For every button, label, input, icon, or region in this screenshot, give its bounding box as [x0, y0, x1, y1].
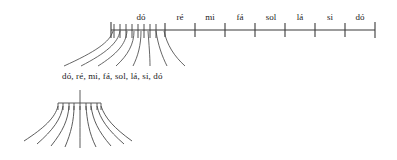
fan-line — [133, 31, 141, 66]
note-label-do-1: dó — [137, 12, 147, 22]
bell-curve — [91, 106, 111, 146]
bell-curve-group — [24, 106, 132, 148]
note-label-si: si — [327, 12, 334, 22]
note-label-sol: sol — [266, 12, 277, 22]
note-label-la: lá — [297, 12, 304, 22]
note-label-do-2: dó — [356, 12, 366, 22]
note-label-re: ré — [177, 12, 184, 22]
scale-caption: dó, ré, mi, fá, sol, lá, si, dó — [62, 71, 163, 81]
bell-curve — [24, 106, 58, 141]
fan-line — [98, 31, 127, 66]
figure-container: dó ré mi fá sol lá si dó dó, ré, mi, fá,… — [0, 0, 397, 160]
compression-fan-group — [64, 31, 185, 66]
bell-fan-group — [24, 90, 132, 148]
bell-curve — [51, 106, 69, 146]
fan-line — [164, 31, 185, 66]
scale-fan-diagram: dó ré mi fá sol lá si dó dó, ré, mi, fá,… — [0, 0, 397, 160]
bell-curve — [65, 106, 74, 147]
bell-tick-group — [58, 103, 101, 110]
note-label-fa: fá — [237, 12, 244, 22]
note-label-group: dó ré mi fá sol lá si dó — [137, 12, 366, 22]
bell-curve — [97, 106, 124, 144]
cluster-tick-group — [114, 24, 156, 38]
bell-curve — [37, 106, 63, 144]
note-scale-axis-group: dó ré mi fá sol lá si dó — [111, 12, 375, 38]
bell-curve — [86, 106, 96, 147]
note-label-mi: mi — [205, 12, 215, 22]
